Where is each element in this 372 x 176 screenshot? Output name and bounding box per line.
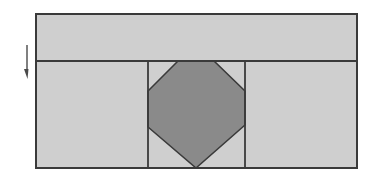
top-band-panel <box>36 14 357 61</box>
arrow-head <box>24 69 29 79</box>
down-arrow-icon <box>24 45 29 79</box>
block-diagram <box>0 0 372 176</box>
diagram-canvas <box>0 0 372 176</box>
